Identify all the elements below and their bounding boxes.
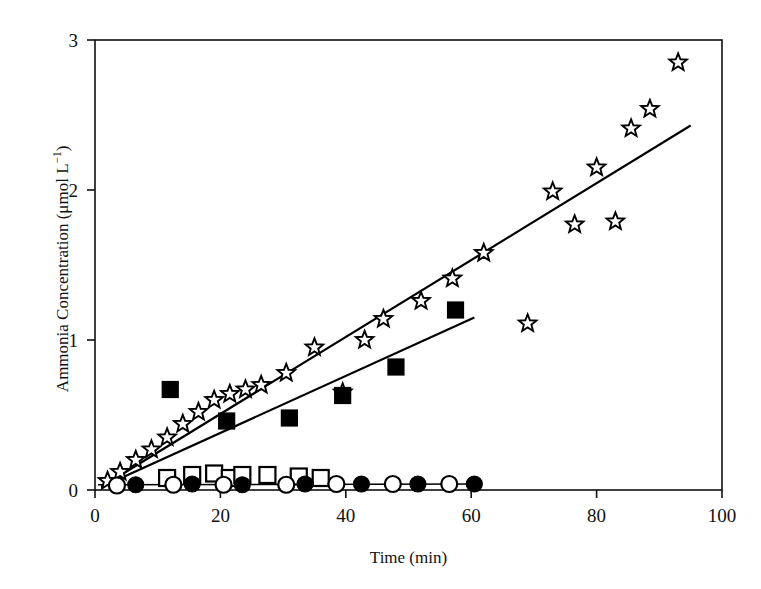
open-star-marker <box>375 310 393 327</box>
open-star-marker <box>205 391 223 408</box>
axis-tick-labels: 0204060801000123 <box>69 30 737 526</box>
open-star-marker <box>356 331 374 348</box>
open-star-marker <box>221 385 238 402</box>
open-star-marker <box>444 269 462 286</box>
chart-figure: 0204060801000123 Ammonia Concentration (… <box>0 0 761 589</box>
open-star-marker <box>190 403 207 420</box>
x-tick-label-0: 0 <box>90 505 100 526</box>
y-axis-title-tail: ) <box>53 146 72 152</box>
x-tick-label-60: 60 <box>462 505 481 526</box>
y-axis-title-exponent: −1 <box>51 151 64 163</box>
open-star-marker <box>607 212 625 229</box>
open-star-marker <box>143 440 161 457</box>
filled-square-marker <box>448 302 464 318</box>
open-star-marker <box>544 182 562 199</box>
y-tick-label-3: 3 <box>69 30 79 51</box>
star-trendline <box>101 126 690 488</box>
x-tick-label-40: 40 <box>336 505 355 526</box>
y-tick-label-0: 0 <box>69 480 79 501</box>
open-square-marker <box>313 470 329 486</box>
open-star-marker <box>588 158 606 175</box>
x-tick-label-20: 20 <box>211 505 230 526</box>
open-star-series <box>99 53 687 488</box>
data-markers <box>99 53 687 493</box>
open-star-marker <box>566 215 583 232</box>
open-circle-marker <box>216 477 232 493</box>
filled-square-marker <box>281 410 297 426</box>
filled-square-marker <box>162 382 178 398</box>
filled-circle-marker <box>128 477 144 493</box>
filled-circle-marker <box>234 477 250 493</box>
open-star-marker <box>174 415 192 432</box>
x-axis-title: Time (min) <box>95 548 722 568</box>
open-star-marker <box>252 376 269 393</box>
filled-circle-marker <box>184 476 200 492</box>
open-circle-marker <box>165 477 181 493</box>
filled-square-marker <box>219 413 235 429</box>
open-star-marker <box>475 244 493 261</box>
open-circle-marker <box>385 476 401 492</box>
square-trendline <box>101 318 474 488</box>
y-axis-title: Ammonia Concentration (μmol L−1) <box>51 59 73 479</box>
filled-circle-marker <box>410 476 426 492</box>
open-circle-marker <box>441 476 457 492</box>
x-tick-label-80: 80 <box>587 505 606 526</box>
open-star-marker <box>127 451 144 468</box>
open-star-marker <box>669 53 687 70</box>
open-star-marker <box>519 314 537 331</box>
open-circle-marker <box>328 476 344 492</box>
open-star-marker <box>641 100 658 117</box>
scatter-plot-canvas: 0204060801000123 <box>0 0 761 589</box>
filled-circle-marker <box>297 476 313 492</box>
x-tick-label-100: 100 <box>708 505 737 526</box>
filled-square-marker <box>335 388 351 404</box>
trendlines <box>98 126 691 488</box>
open-square-marker <box>259 467 275 483</box>
filled-circle-marker <box>353 476 369 492</box>
filled-circle-marker <box>466 476 482 492</box>
filled-square-marker <box>388 359 404 375</box>
open-circle-marker <box>109 478 125 494</box>
open-star-marker <box>622 119 639 136</box>
y-axis-title-main: Ammonia Concentration (μmol L <box>53 163 72 392</box>
open-circle-marker <box>278 477 294 493</box>
